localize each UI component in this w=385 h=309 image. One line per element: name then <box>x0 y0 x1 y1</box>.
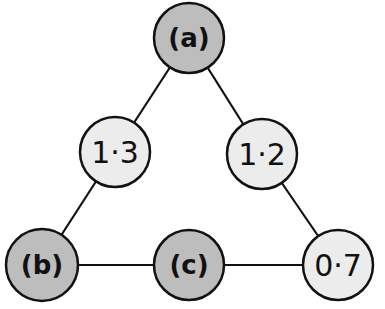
triangle-diagram: (a) 1·3 1·2 (b) (c) 0·7 <box>0 0 385 309</box>
node-0-7-label: 0·7 <box>314 248 362 283</box>
node-b-label: (b) <box>21 250 63 280</box>
node-1-3: 1·3 <box>80 117 150 187</box>
node-0-7: 0·7 <box>303 230 373 300</box>
node-a: (a) <box>154 3 224 73</box>
node-1-2-label: 1·2 <box>238 137 286 172</box>
node-1-2: 1·2 <box>227 119 297 189</box>
node-a-label: (a) <box>168 23 209 53</box>
node-1-3-label: 1·3 <box>91 135 139 170</box>
node-c: (c) <box>154 230 224 300</box>
node-b: (b) <box>6 229 78 301</box>
node-c-label: (c) <box>169 250 208 280</box>
